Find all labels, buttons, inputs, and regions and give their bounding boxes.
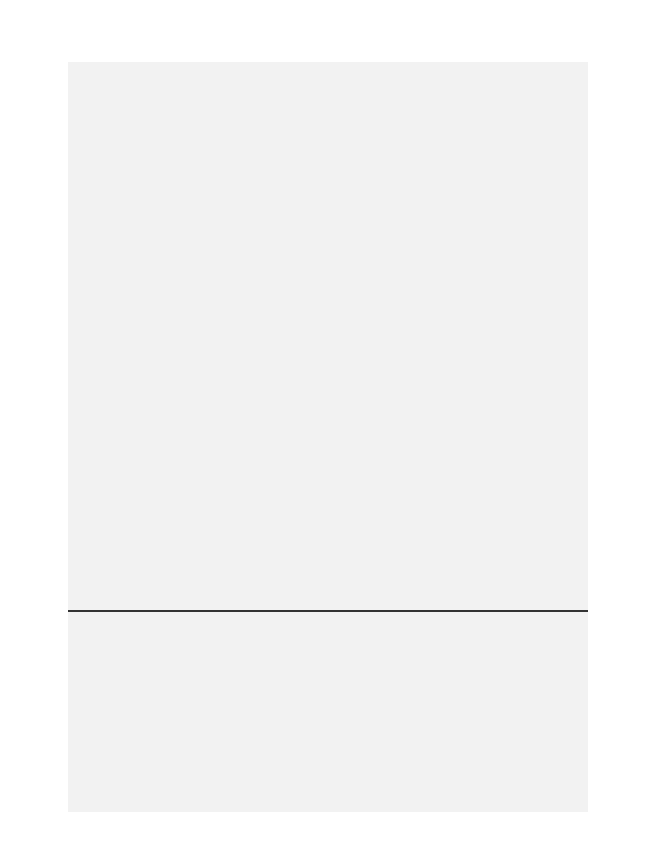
climate-chart-graphics xyxy=(0,0,653,851)
